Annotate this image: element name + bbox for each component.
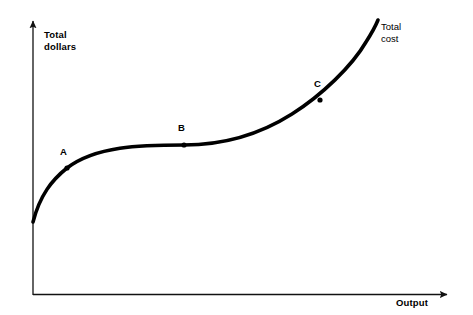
curve-point-label-a: A (60, 147, 67, 157)
curve-point-a (64, 165, 69, 170)
curve-point-b (181, 142, 186, 147)
curve-point-label-c: C (314, 79, 321, 89)
curve-point-label-b: B (178, 123, 185, 133)
y-axis-label: Total dollars (44, 29, 76, 52)
x-axis-label: Output (396, 297, 428, 309)
curve-point-markers (64, 97, 322, 170)
total-cost-curve (33, 20, 378, 222)
curve-point-c (317, 97, 322, 102)
chart-figure: Total dollars Output Total cost A B C (0, 0, 473, 315)
total-cost-curve-label: Total cost (381, 21, 401, 45)
